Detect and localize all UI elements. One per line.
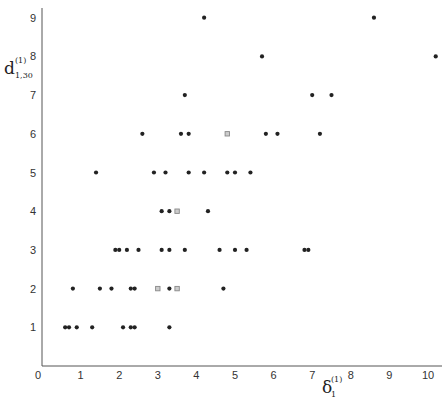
data-point <box>160 248 164 252</box>
x-tick-label: 10 <box>422 369 434 381</box>
data-point <box>318 132 322 136</box>
data-point <box>221 287 225 291</box>
x-axis-label-sup: (1) <box>331 375 342 384</box>
data-point <box>248 170 252 174</box>
data-point <box>206 209 210 213</box>
y-tick-label: 4 <box>30 205 36 217</box>
x-tick-label: 7 <box>309 369 315 381</box>
data-point <box>264 132 268 136</box>
data-point <box>310 93 314 97</box>
data-point <box>217 248 221 252</box>
y-tick-label: 7 <box>30 89 36 101</box>
data-point <box>71 287 75 291</box>
data-point <box>136 248 140 252</box>
x-tick-label: 4 <box>193 369 199 381</box>
square-marker <box>175 286 179 290</box>
y-axis-label-base: d <box>4 58 15 78</box>
y-axis-label-sub: 1,30 <box>15 71 33 80</box>
data-point <box>434 54 438 58</box>
data-point <box>306 248 310 252</box>
data-point <box>129 287 133 291</box>
data-point <box>187 132 191 136</box>
square-marker <box>156 286 160 290</box>
data-point <box>163 170 167 174</box>
data-point <box>152 170 156 174</box>
data-point <box>275 132 279 136</box>
data-point <box>183 93 187 97</box>
data-point <box>98 287 102 291</box>
y-axis-label-sup: (1) <box>15 56 26 65</box>
data-point <box>75 325 79 329</box>
x-tick-label: 3 <box>155 369 161 381</box>
y-tick-label: 2 <box>30 283 36 295</box>
data-point <box>187 170 191 174</box>
data-point <box>113 248 117 252</box>
x-tick-label: 8 <box>348 369 354 381</box>
data-point <box>233 248 237 252</box>
x-axis-label: δ (1) 1 <box>322 375 342 399</box>
x-tick-label: 5 <box>232 369 238 381</box>
x-axis-label-sub: 1 <box>331 390 336 399</box>
x-tick-label: 2 <box>116 369 122 381</box>
y-tick-label: 8 <box>30 50 36 62</box>
x-tick-labels: 012345678910 <box>35 369 434 381</box>
data-point <box>202 16 206 20</box>
data-point <box>183 248 187 252</box>
data-point <box>94 170 98 174</box>
data-point <box>67 325 71 329</box>
x-tick-label: 6 <box>271 369 277 381</box>
data-point <box>167 209 171 213</box>
data-point <box>202 170 206 174</box>
x-tick-label: 1 <box>78 369 84 381</box>
y-tick-labels: 123456789 <box>30 12 36 334</box>
square-marker <box>225 132 229 136</box>
data-point <box>167 325 171 329</box>
data-point <box>133 325 137 329</box>
data-point <box>140 132 144 136</box>
data-point <box>329 93 333 97</box>
data-point <box>260 54 264 58</box>
data-point <box>121 325 125 329</box>
data-point <box>90 325 94 329</box>
data-point <box>244 248 248 252</box>
y-tick-label: 9 <box>30 12 36 24</box>
y-tick-label: 3 <box>30 244 36 256</box>
scatter-plot: 012345678910 123456789 d (1) 1,30 δ (1) … <box>0 0 446 402</box>
data-point <box>125 248 129 252</box>
data-point <box>302 248 306 252</box>
data-point <box>372 16 376 20</box>
data-point <box>160 209 164 213</box>
data-point <box>63 325 67 329</box>
square-marker <box>175 209 179 213</box>
data-point <box>233 170 237 174</box>
data-point <box>225 170 229 174</box>
axes <box>42 8 442 366</box>
data-point <box>109 287 113 291</box>
x-tick-label: 9 <box>386 369 392 381</box>
data-point <box>117 248 121 252</box>
y-tick-label: 1 <box>30 321 36 333</box>
data-points <box>63 16 438 330</box>
x-tick-label: 0 <box>35 369 41 381</box>
data-point <box>167 287 171 291</box>
y-tick-label: 6 <box>30 128 36 140</box>
data-point <box>129 325 133 329</box>
data-point <box>167 248 171 252</box>
y-axis-label: d (1) 1,30 <box>4 56 33 80</box>
data-point <box>179 132 183 136</box>
y-tick-label: 5 <box>30 167 36 179</box>
data-point <box>133 287 137 291</box>
